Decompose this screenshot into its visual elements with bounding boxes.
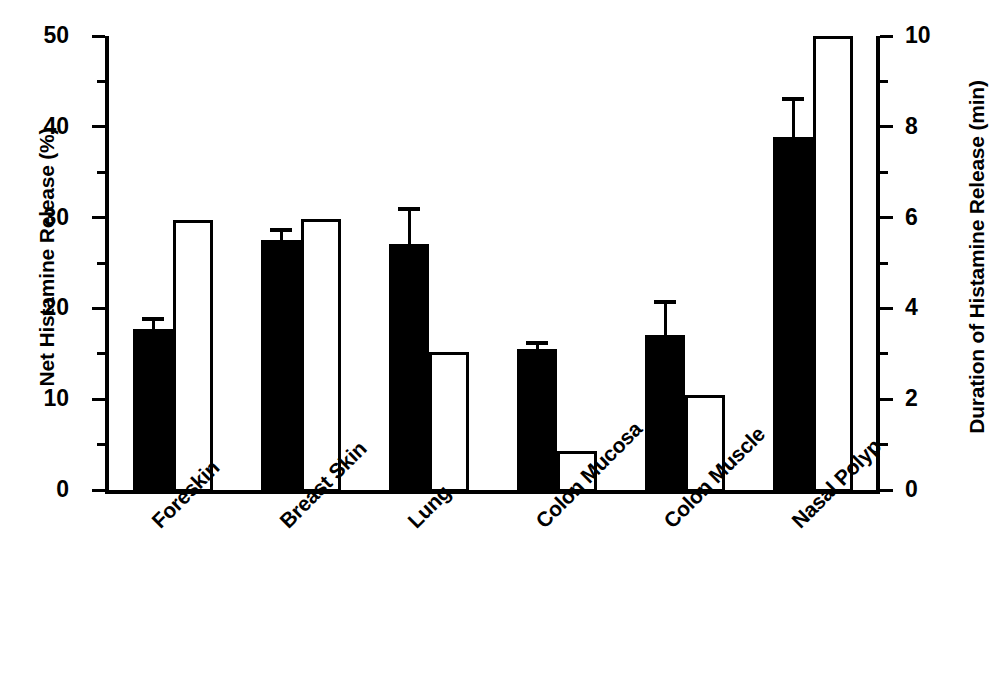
left-tick-label: 10	[0, 387, 69, 410]
left-tick-major	[92, 216, 105, 219]
chart-figure: Net Histamine Release (%) Duration of Hi…	[0, 0, 992, 685]
error-bar-cap	[782, 97, 804, 101]
right-tick-minor	[880, 262, 888, 265]
left-tick-minor	[97, 80, 105, 83]
bar-duration	[429, 352, 469, 492]
error-bar-stem	[664, 300, 667, 335]
y-axis-right-spine	[876, 36, 880, 494]
right-tick-minor	[880, 171, 888, 174]
x-axis-spine	[105, 490, 880, 494]
right-tick-major	[880, 489, 893, 492]
right-tick-major	[880, 35, 893, 38]
error-bar-cap	[398, 207, 420, 211]
bar-duration	[173, 220, 213, 492]
left-tick-major	[92, 125, 105, 128]
right-tick-label: 0	[905, 478, 992, 501]
error-bar-cap	[142, 317, 164, 321]
right-tick-label: 2	[905, 387, 992, 410]
error-bar	[773, 97, 813, 137]
bar-net-release	[133, 329, 173, 490]
error-bar-cap	[654, 300, 676, 304]
right-tick-label: 4	[905, 296, 992, 319]
error-bar-stem	[408, 207, 411, 244]
error-bar	[517, 341, 557, 349]
right-tick-label: 10	[905, 24, 992, 47]
bar-duration	[813, 36, 853, 492]
left-tick-label: 50	[0, 24, 69, 47]
error-bar	[645, 300, 685, 335]
error-bar	[389, 207, 429, 244]
left-tick-minor	[97, 171, 105, 174]
y-axis-left-spine	[105, 36, 109, 494]
y-axis-right-title: Duration of Histamine Release (min)	[965, 17, 989, 497]
right-tick-major	[880, 125, 893, 128]
bar-duration	[301, 219, 341, 492]
plot-area: 01020304050 0246810 ForeskinBreast SkinL…	[105, 36, 880, 490]
bar-net-release	[389, 244, 429, 490]
left-tick-label: 0	[0, 478, 69, 501]
error-bar	[261, 228, 301, 241]
left-tick-label: 20	[0, 296, 69, 319]
error-bar-cap	[270, 228, 292, 232]
left-tick-label: 40	[0, 115, 69, 138]
left-tick-minor	[97, 352, 105, 355]
bar-net-release	[645, 335, 685, 490]
bar-net-release	[261, 240, 301, 490]
right-tick-minor	[880, 352, 888, 355]
error-bar-stem	[792, 97, 795, 137]
bar-net-release	[773, 137, 813, 490]
right-tick-label: 6	[905, 206, 992, 229]
right-tick-minor	[880, 80, 888, 83]
left-tick-major	[92, 489, 105, 492]
error-bar	[133, 317, 173, 329]
right-tick-major	[880, 216, 893, 219]
left-tick-minor	[97, 443, 105, 446]
error-bar-cap	[526, 341, 548, 345]
left-tick-label: 30	[0, 206, 69, 229]
left-tick-major	[92, 307, 105, 310]
right-tick-label: 8	[905, 115, 992, 138]
right-tick-major	[880, 307, 893, 310]
left-tick-major	[92, 35, 105, 38]
bar-net-release	[517, 349, 557, 490]
right-tick-major	[880, 398, 893, 401]
left-tick-major	[92, 398, 105, 401]
left-tick-minor	[97, 262, 105, 265]
